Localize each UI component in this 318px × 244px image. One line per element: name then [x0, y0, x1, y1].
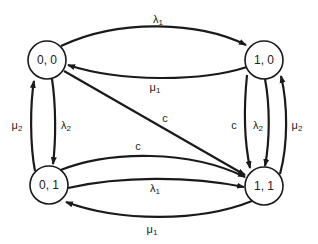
edge-01-to-00-mu2 — [31, 81, 35, 171]
edge-10-to-00-mu1 — [68, 65, 247, 78]
edge-label-lambda2-right: λ2 — [253, 119, 264, 133]
node-0-0: 0, 0 — [28, 41, 66, 79]
edge-10-to-11-c — [245, 75, 250, 168]
edge-00-to-01-lambda2 — [52, 79, 55, 164]
edge-label-mu2-left: μ2 — [12, 119, 23, 133]
edge-label-mu1-top: μ1 — [150, 81, 161, 95]
node-label: 1, 0 — [254, 53, 274, 67]
edge-00-to-10-lambda1 — [61, 26, 246, 46]
edge-11-to-01-mu1 — [66, 201, 252, 217]
node-0-1: 0, 1 — [30, 166, 68, 204]
node-1-0: 1, 0 — [245, 41, 283, 79]
node-label: 0, 0 — [37, 53, 57, 67]
edge-label-mu1-bottom: μ1 — [147, 223, 158, 237]
edge-label-c-right: c — [231, 119, 237, 131]
node-1-1: 1, 1 — [245, 167, 283, 205]
node-label: 0, 1 — [39, 178, 59, 192]
node-label: 1, 1 — [254, 179, 274, 193]
edge-label-c-bottom: c — [135, 140, 141, 152]
edge-label-lambda1-bottom: λ1 — [150, 182, 161, 196]
edge-label-mu2-right: μ2 — [292, 119, 303, 133]
edge-10-to-11-lambda2 — [265, 79, 269, 166]
edge-label-lambda1-top: λ1 — [153, 13, 164, 27]
edge-label-lambda2-left: λ2 — [61, 119, 72, 133]
state-transition-diagram: 0, 0 1, 0 0, 1 1, 1 λ1 μ1 c λ2 μ2 c λ1 μ… — [0, 0, 318, 244]
edge-11-to-10-mu2 — [280, 76, 286, 174]
edge-label-c-diagonal: c — [162, 112, 168, 124]
